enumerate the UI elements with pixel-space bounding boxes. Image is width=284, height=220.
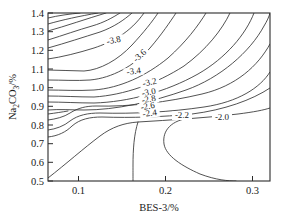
y-tick-label: 0.5 (31, 176, 44, 187)
y-axis-tick-labels: 0.5 0.6 0.7 0.8 0.9 1.0 1.1 1.2 1.3 1.4 (31, 8, 45, 187)
contour-label: -2.2 (172, 110, 192, 120)
y-axis-title: Na2CO3/% (7, 74, 21, 120)
y-tick-label: 1.4 (31, 8, 45, 19)
y-axis-title-post: /% (7, 74, 18, 86)
y-tick-label: 1.3 (31, 26, 44, 37)
y-tick-label: 1.2 (31, 45, 44, 56)
contour-label-text: -2.0 (215, 112, 230, 122)
y-tick-label: 0.8 (31, 120, 44, 131)
contour-label-text: -3.4 (126, 65, 142, 77)
contour-plot-svg: 0.5 0.6 0.7 0.8 0.9 1.0 1.1 1.2 1.3 1.4 … (0, 0, 284, 220)
x-axis-tick-labels: 0.1 0.2 0.3 (72, 185, 259, 196)
contour-chart-figure: 0.5 0.6 0.7 0.8 0.9 1.0 1.1 1.2 1.3 1.4 … (0, 0, 284, 220)
x-tick-label: 0.1 (72, 185, 85, 196)
y-tick-label: 1.0 (31, 82, 44, 93)
x-tick-label: 0.2 (159, 185, 172, 196)
y-tick-label: 0.7 (31, 138, 44, 149)
x-axis-title: BES-3/% (139, 202, 179, 213)
y-axis-title-pre: Na (7, 107, 18, 120)
y-tick-label: 1.1 (31, 64, 44, 75)
svg-text:Na2CO3/%: Na2CO3/% (7, 74, 21, 120)
contour-label-text: -2.4 (142, 107, 158, 119)
y-tick-label: 0.6 (31, 157, 44, 168)
y-tick-label: 0.9 (31, 101, 44, 112)
x-tick-label: 0.3 (246, 185, 259, 196)
contour-label: -2.0 (212, 112, 232, 122)
y-axis-title-mid: CO (7, 89, 18, 104)
contour-label-text: -2.2 (175, 110, 189, 120)
